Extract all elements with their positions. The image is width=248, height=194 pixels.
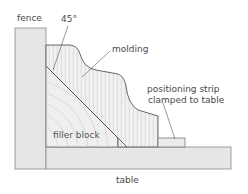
fence	[15, 28, 46, 169]
table	[46, 147, 231, 169]
positioning-strip	[158, 138, 185, 147]
molding-label: molding	[112, 44, 148, 54]
strip-leader	[163, 103, 175, 139]
filler-block-label: filler block	[53, 130, 100, 140]
strip-label-line1: positioning strip	[147, 84, 220, 94]
table-label: table	[116, 175, 139, 185]
strip-label-line2: clamped to table	[148, 95, 224, 105]
angle-label: 45°	[61, 14, 77, 24]
fence-label: fence	[17, 13, 42, 23]
